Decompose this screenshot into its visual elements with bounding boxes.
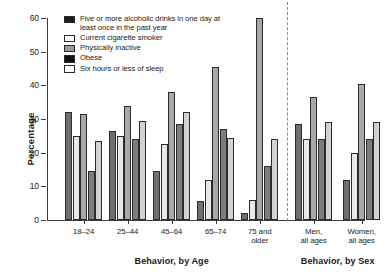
bar (343, 180, 350, 220)
legend-swatch-black-solid (64, 55, 75, 63)
legend-item: Physically inactive (64, 44, 232, 53)
bar-group (295, 18, 332, 220)
bar (176, 124, 183, 220)
legend-swatch-white-outline (64, 65, 75, 73)
x-axis-line (47, 220, 365, 221)
legend-item-label: Six hours or less of sleep (80, 65, 164, 74)
bar (88, 171, 95, 220)
section-divider (287, 2, 288, 221)
bar (373, 122, 380, 220)
y-tick-mark (41, 85, 46, 86)
bar (183, 112, 190, 220)
x-label-line: 75 and (231, 227, 289, 236)
bar (318, 139, 325, 220)
bar (80, 114, 87, 220)
legend-item: Current cigarette smoker (64, 34, 232, 43)
legend-item: Obese (64, 54, 232, 63)
x-tick-mark (260, 220, 261, 224)
bar (205, 180, 212, 220)
legend-item: Six hours or less of sleep (64, 65, 232, 74)
x-axis-group-label: Women,all ages (333, 227, 384, 245)
x-tick-mark (84, 220, 85, 224)
bar-group (343, 18, 380, 220)
bar (139, 121, 146, 220)
bar (132, 139, 139, 220)
bar (249, 200, 256, 220)
x-axis-group-label: 75 andolder (231, 227, 289, 245)
bar (117, 136, 124, 220)
y-tick-mark (41, 220, 46, 221)
bar-group (241, 18, 278, 220)
legend-item-label: Physically inactive (80, 44, 141, 53)
legend-item-label: Five or more alcoholic drinks in one day… (80, 15, 232, 33)
y-tick-label: 50 (30, 47, 39, 56)
bar (310, 97, 317, 220)
legend: Five or more alcoholic drinks in one day… (64, 15, 232, 75)
y-tick-label: 30 (30, 115, 39, 124)
bar (271, 139, 278, 220)
y-tick-label: 60 (30, 14, 39, 23)
bar (95, 141, 102, 220)
x-tick-mark (362, 220, 363, 224)
x-label-line: Women, (333, 227, 384, 236)
legend-item-label: Current cigarette smoker (80, 34, 162, 43)
x-tick-mark (128, 220, 129, 224)
bar (73, 136, 80, 220)
y-tick-mark (41, 52, 46, 53)
y-tick-label: 0 (34, 216, 39, 225)
y-tick-mark (41, 153, 46, 154)
bar (65, 112, 72, 220)
bar (295, 124, 302, 220)
y-tick-mark (41, 119, 46, 120)
bar (227, 138, 234, 220)
legend-item: Five or more alcoholic drinks in one day… (64, 15, 232, 33)
bar (124, 106, 131, 220)
bar (161, 144, 168, 220)
bar (212, 67, 219, 220)
bar (303, 139, 310, 220)
legend-item-label: Obese (80, 54, 102, 63)
x-tick-mark (172, 220, 173, 224)
legend-swatch-dark-solid (64, 16, 75, 24)
bar (220, 129, 227, 220)
bar (168, 92, 175, 220)
y-axis-line (47, 18, 48, 221)
bar (153, 171, 160, 220)
bar (264, 166, 271, 220)
bar (197, 201, 204, 220)
x-label-line: all ages (333, 236, 384, 245)
y-tick-label: 40 (30, 81, 39, 90)
y-tick-mark (41, 18, 46, 19)
legend-swatch-gray-textured (64, 45, 75, 53)
y-tick-label: 10 (30, 182, 39, 191)
bar (358, 84, 365, 220)
bar (366, 139, 373, 220)
x-label-line: older (231, 236, 289, 245)
bar (325, 122, 332, 220)
y-tick-mark (41, 186, 46, 187)
bar (256, 18, 263, 220)
bar (351, 153, 358, 220)
section-title-age: Behavior, by Age (102, 256, 242, 266)
y-tick-label: 20 (30, 148, 39, 157)
bar (109, 131, 116, 220)
legend-swatch-white-outline (64, 35, 75, 43)
x-tick-mark (216, 220, 217, 224)
bar (241, 213, 248, 220)
x-tick-mark (314, 220, 315, 224)
section-title-sex: Behavior, by Sex (278, 256, 384, 266)
